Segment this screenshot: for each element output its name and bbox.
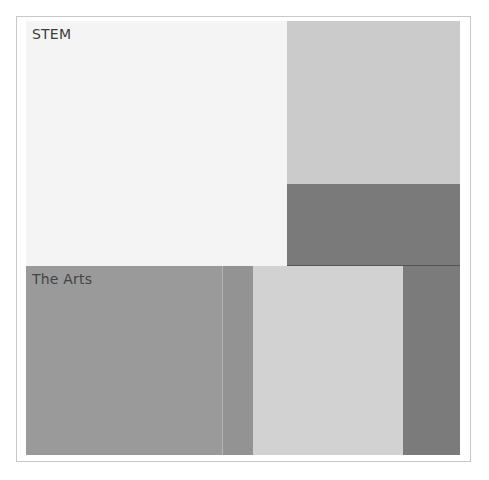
group-label-stem: STEM (32, 26, 71, 42)
treemap-cell-stem-2[interactable] (287, 21, 460, 184)
treemap-cell-arts-1[interactable]: The Arts (26, 266, 222, 455)
group-label-arts: The Arts (32, 271, 92, 287)
treemap-cell-stem-3[interactable] (287, 184, 460, 266)
treemap-cell-stem-1[interactable]: STEM (26, 21, 287, 266)
treemap-cell-arts-4[interactable] (403, 266, 460, 455)
treemap-cell-arts-3[interactable] (253, 266, 403, 455)
treemap-cell-arts-2[interactable] (222, 266, 253, 455)
